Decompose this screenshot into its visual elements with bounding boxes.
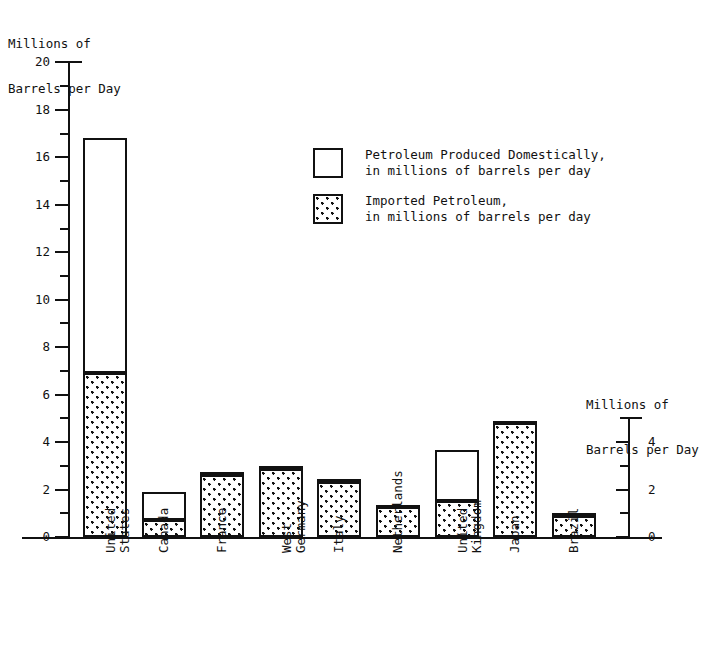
right-tick-minor bbox=[620, 512, 629, 514]
left-tick-major bbox=[55, 394, 69, 396]
category-label-line: Kingdom bbox=[470, 453, 484, 553]
left-tick-minor bbox=[60, 180, 69, 182]
right-tick-major bbox=[616, 441, 630, 443]
right-axis-spine bbox=[628, 418, 630, 539]
legend-label-line: Imported Petroleum, bbox=[365, 193, 591, 209]
left-tick-major bbox=[55, 299, 69, 301]
category-label: UnitedStates bbox=[104, 453, 132, 553]
category-label: WestGermany bbox=[280, 453, 308, 553]
legend-label-line: Petroleum Produced Domestically, bbox=[365, 147, 606, 163]
left-tick-label: 0 bbox=[8, 530, 50, 543]
category-label-line: West bbox=[280, 453, 294, 553]
left-tick-major bbox=[55, 536, 69, 538]
left-tick-label: 16 bbox=[8, 150, 50, 163]
legend-swatch-imported bbox=[313, 194, 343, 224]
category-label-line: France bbox=[215, 453, 229, 553]
petroleum-stacked-bar-chart: Millions of Barrels per Day Millions of … bbox=[0, 0, 715, 664]
left-tick-major bbox=[55, 61, 69, 63]
left-tick-minor bbox=[60, 228, 69, 230]
left-tick-minor bbox=[60, 85, 69, 87]
legend-label: Petroleum Produced Domestically,in milli… bbox=[365, 147, 606, 179]
left-tick-label: 4 bbox=[8, 435, 50, 448]
left-tick-minor bbox=[60, 322, 69, 324]
category-label-line: Netherlands bbox=[391, 453, 405, 553]
right-axis-top-cap bbox=[628, 417, 642, 419]
right-tick-label: 4 bbox=[648, 435, 682, 448]
category-label-line: United bbox=[104, 453, 118, 553]
category-label-line: United bbox=[456, 453, 470, 553]
left-tick-major bbox=[55, 109, 69, 111]
left-tick-label: 2 bbox=[8, 483, 50, 496]
left-tick-minor bbox=[60, 465, 69, 467]
category-label: UnitedKingdom bbox=[456, 453, 484, 553]
left-tick-major bbox=[55, 251, 69, 253]
category-label-line: States bbox=[118, 453, 132, 553]
category-label-line: Germany bbox=[294, 453, 308, 553]
left-tick-major bbox=[55, 346, 69, 348]
right-tick-label: 2 bbox=[648, 483, 682, 496]
legend-swatch-domestic bbox=[313, 148, 343, 178]
left-tick-label: 18 bbox=[8, 103, 50, 116]
left-tick-minor bbox=[60, 417, 69, 419]
category-label: Brazil bbox=[567, 453, 581, 553]
legend-label-line: in millions of barrels per day bbox=[365, 163, 606, 179]
right-tick-major bbox=[616, 489, 630, 491]
left-tick-label: 8 bbox=[8, 340, 50, 353]
left-tick-label: 12 bbox=[8, 245, 50, 258]
left-tick-major bbox=[55, 156, 69, 158]
category-label: Italy bbox=[332, 453, 346, 553]
right-tick-minor bbox=[620, 465, 629, 467]
legend-label-line: in millions of barrels per day bbox=[365, 209, 591, 225]
left-tick-major bbox=[55, 204, 69, 206]
left-tick-minor bbox=[60, 512, 69, 514]
left-tick-label: 14 bbox=[8, 198, 50, 211]
left-tick-label: 6 bbox=[8, 388, 50, 401]
right-tick-label: 0 bbox=[648, 530, 682, 543]
category-label: France bbox=[215, 453, 229, 553]
left-tick-minor bbox=[60, 370, 69, 372]
category-label-line: Canada bbox=[157, 453, 171, 553]
left-tick-major bbox=[55, 441, 69, 443]
plot-area: 02468101214161820 024 UnitedStatesCanada… bbox=[0, 0, 715, 664]
left-tick-major bbox=[55, 489, 69, 491]
legend-label: Imported Petroleum,in millions of barrel… bbox=[365, 193, 591, 225]
category-label: Japan bbox=[508, 453, 522, 553]
left-tick-minor bbox=[60, 133, 69, 135]
category-label-line: Italy bbox=[332, 453, 346, 553]
left-tick-label: 20 bbox=[8, 55, 50, 68]
category-label: Netherlands bbox=[391, 453, 405, 553]
left-axis-top-cap bbox=[68, 61, 82, 63]
category-label-line: Brazil bbox=[567, 453, 581, 553]
left-tick-label: 10 bbox=[8, 293, 50, 306]
right-tick-major bbox=[616, 536, 630, 538]
left-tick-minor bbox=[60, 275, 69, 277]
bar-segment-domestic bbox=[83, 138, 127, 373]
category-label: Canada bbox=[157, 453, 171, 553]
category-label-line: Japan bbox=[508, 453, 522, 553]
